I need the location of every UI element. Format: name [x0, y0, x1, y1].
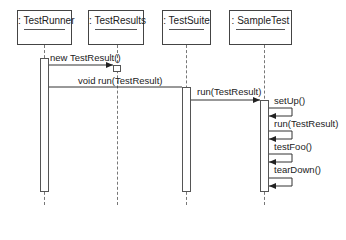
message-label: setUp()	[274, 95, 305, 106]
message-label: tearDown()	[274, 164, 321, 175]
message-label: testFoo()	[274, 141, 312, 152]
message-label: run(TestResult)	[197, 86, 261, 97]
message-label: new TestResult()	[50, 52, 121, 63]
message-label: run(TestResult)	[274, 118, 338, 129]
message-label: void run(TestResult)	[78, 75, 162, 86]
